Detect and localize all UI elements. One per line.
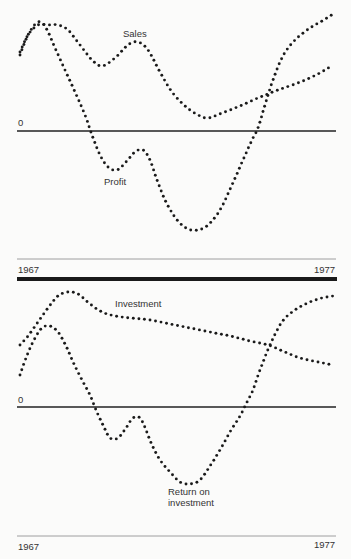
investment-series	[19, 291, 331, 366]
bottom-end-year: 1977	[314, 539, 335, 550]
section-divider	[17, 277, 337, 281]
top-series-group	[19, 14, 333, 232]
investment-label: Investment	[115, 298, 162, 309]
sales-label: Sales	[123, 28, 147, 39]
bottom-series-group	[19, 291, 334, 486]
profit-series	[19, 14, 333, 232]
return-on-investment-series	[19, 295, 334, 486]
chart-canvas: 0 1967 1977 Sales Profit 0 1967 1977 Inv…	[0, 0, 351, 559]
top-zero-label: 0	[18, 117, 23, 128]
roi-label-line2: investment	[168, 497, 214, 508]
top-end-year: 1977	[314, 264, 335, 275]
profit-label: Profit	[104, 176, 127, 187]
bottom-zero-label: 0	[18, 394, 23, 405]
roi-label-line1: Return on	[168, 486, 210, 497]
bottom-start-year: 1967	[18, 541, 39, 552]
top-start-year: 1967	[18, 264, 39, 275]
